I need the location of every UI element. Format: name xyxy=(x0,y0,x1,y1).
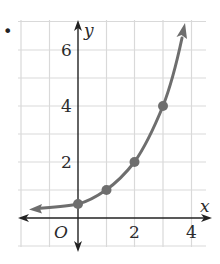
point-3-4 xyxy=(158,101,168,111)
x-tick-2: 2 xyxy=(129,222,140,242)
axes xyxy=(18,20,212,252)
curve-left-arrow-icon xyxy=(29,204,42,214)
y-axis-label: y xyxy=(83,20,94,40)
origin-label: O xyxy=(54,222,68,242)
point-2-2 xyxy=(130,157,140,167)
point-0-0.5 xyxy=(73,199,83,209)
y-tick-2: 2 xyxy=(61,152,72,172)
x-tick-4: 4 xyxy=(186,222,197,242)
y-tick-6: 6 xyxy=(61,40,72,60)
exponential-graph: y x O 6 4 2 2 4 xyxy=(0,0,220,264)
y-tick-4: 4 xyxy=(61,96,72,116)
point-1-1 xyxy=(102,185,112,195)
x-axis-label: x xyxy=(200,196,210,216)
